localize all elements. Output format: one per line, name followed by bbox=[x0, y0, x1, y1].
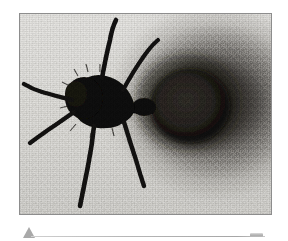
horizontal-rule bbox=[31, 236, 265, 237]
page-canvas bbox=[0, 0, 288, 241]
scan-noise-overlay bbox=[20, 14, 271, 214]
figure-marker-row bbox=[0, 222, 288, 241]
rule-end-cap-icon bbox=[250, 233, 263, 237]
figure-plate-frame bbox=[19, 13, 272, 215]
